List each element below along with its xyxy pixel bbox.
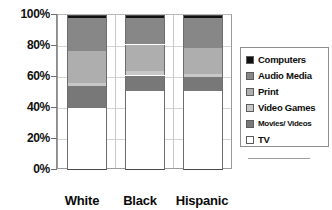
segment-black-tv[interactable] [125,91,165,170]
x-axis-label-hispanic: Hispanic [166,193,238,208]
segment-black-computers[interactable] [125,15,165,18]
legend-label-tv: TV [258,134,270,145]
segment-black-audio-media[interactable] [125,18,165,44]
segment-hispanic-print[interactable] [183,48,223,74]
legend-item-video-games[interactable]: Video Games [246,100,328,115]
segment-hispanic-audio-media[interactable] [183,18,223,48]
segment-white-tv[interactable] [67,108,107,170]
y-tick-mark [51,169,57,170]
segment-black-movies-videos[interactable] [125,76,165,91]
stacked-bar-chart: 100% 80% 60% 40% 20% 0% [0,0,332,210]
legend-swatch-audio-media-icon [246,72,254,80]
segment-hispanic-tv[interactable] [183,91,223,170]
legend-item-audio-media[interactable]: Audio Media [246,68,328,83]
legend-label-movies-videos: Movies/ Videos [258,119,311,128]
segment-black-print[interactable] [125,45,165,71]
y-tick-label-0: 0% [2,163,50,175]
y-tick-label-80: 80% [2,39,50,51]
x-axis-label-black: Black [112,193,168,208]
segment-hispanic-computers[interactable] [183,15,223,18]
bar-white[interactable] [67,15,107,168]
x-axis-label-white: White [52,193,112,208]
legend-swatch-tv-icon [246,136,254,144]
category-separator [115,15,116,168]
segment-black-video-games[interactable] [125,71,165,76]
segment-white-video-games[interactable] [67,83,107,86]
legend-label-audio-media: Audio Media [258,70,312,81]
segment-white-audio-media[interactable] [67,18,107,51]
legend-swatch-movies-videos-icon [246,120,254,128]
category-separator [173,15,174,168]
legend-item-tv[interactable]: TV [246,132,328,147]
legend-swatch-video-games-icon [246,104,254,112]
y-tick-label-60: 60% [2,70,50,82]
segment-white-print[interactable] [67,51,107,84]
legend-item-movies-videos[interactable]: Movies/ Videos [246,116,328,131]
legend-label-computers: Computers [258,54,306,65]
y-tick-label-20: 20% [2,132,50,144]
legend-label-video-games: Video Games [258,102,315,113]
y-tick-label-100: 100% [2,8,50,20]
legend-item-computers[interactable]: Computers [246,52,328,67]
segment-white-movies-videos[interactable] [67,86,107,108]
segment-hispanic-video-games[interactable] [183,74,223,77]
plot-area [57,14,232,169]
legend-item-print[interactable]: Print [246,84,328,99]
segment-hispanic-movies-videos[interactable] [183,77,223,91]
bar-black[interactable] [125,15,165,168]
y-tick-label-40: 40% [2,101,50,113]
legend-swatch-computers-icon [246,56,254,64]
bar-hispanic[interactable] [183,15,223,168]
legend-swatch-print-icon [246,88,254,96]
chart-legend: Computers Audio Media Print Video Games … [240,47,329,147]
legend-underline-rule [248,158,310,159]
legend-label-print: Print [258,86,278,97]
segment-white-computers[interactable] [67,15,107,18]
y-axis-labels: 100% 80% 60% 40% 20% 0% [0,0,50,210]
